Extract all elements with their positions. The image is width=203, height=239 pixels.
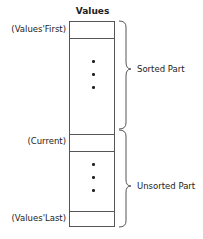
region-sorted-label: Sorted Part (137, 64, 185, 74)
region-unsorted-label: Unsorted Part (137, 181, 195, 191)
brace-unsorted-icon (0, 0, 203, 239)
